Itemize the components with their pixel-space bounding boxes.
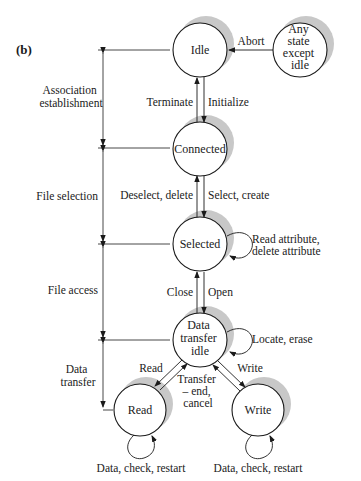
- state-label-write: Write: [245, 403, 272, 417]
- state-diagram: (b) Association establishment File selec…: [0, 0, 361, 481]
- state-data-transfer-idle: Data transfer idle: [173, 313, 227, 367]
- state-selected: Selected: [173, 217, 227, 271]
- label-terminate: Terminate: [147, 96, 193, 108]
- label-write-loop: Data, check, restart: [214, 462, 304, 475]
- state-idle: Idle: [173, 23, 227, 77]
- label-write-transition: Write: [237, 362, 263, 374]
- phase-label-association: Association establishment: [39, 84, 103, 109]
- label-close: Close: [167, 286, 193, 298]
- state-label-idle: Idle: [191, 43, 210, 57]
- label-select-create: Select, create: [208, 189, 269, 202]
- phase-label-file-access: File access: [48, 284, 99, 296]
- label-selected-loop: Read attribute, delete attribute: [252, 233, 323, 257]
- state-label-read: Read: [128, 403, 153, 417]
- label-read-transition: Read: [139, 362, 163, 374]
- label-transfer-end: Transfer – end, cancel: [177, 373, 218, 409]
- state-read: Read: [114, 384, 166, 436]
- label-initialize: Initialize: [208, 96, 249, 108]
- panel-label: (b): [16, 42, 32, 57]
- state-label-selected: Selected: [180, 237, 221, 251]
- phase-label-file-selection: File selection: [36, 190, 98, 202]
- state-label-connected: Connected: [174, 142, 225, 156]
- label-open: Open: [208, 286, 233, 299]
- state-write: Write: [232, 384, 284, 436]
- state-connected: Connected: [173, 122, 227, 176]
- phase-label-data-transfer: Data transfer: [60, 363, 95, 388]
- label-abort: Abort: [238, 35, 266, 47]
- state-any-except-idle: Any state except idle: [273, 22, 327, 77]
- label-locate-erase: Locate, erase: [252, 333, 313, 346]
- label-read-loop: Data, check, restart: [97, 462, 187, 475]
- label-deselect-delete: Deselect, delete: [120, 189, 193, 202]
